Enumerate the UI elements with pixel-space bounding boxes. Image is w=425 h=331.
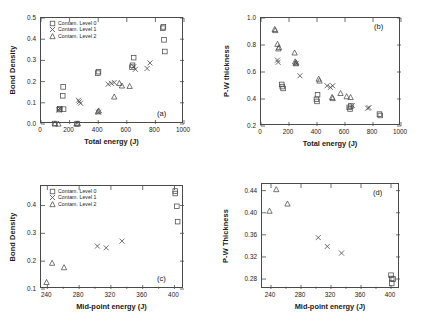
- xtick-label: 0: [258, 128, 262, 135]
- legend-label: Contam. Level 2: [57, 33, 97, 39]
- ytick-label: 0.40: [245, 208, 257, 215]
- xtick-label: 0: [38, 126, 42, 133]
- y-axis-label-b: P-W thickness: [222, 45, 231, 97]
- ytick-label: 0.0: [27, 120, 36, 127]
- xtick-label: 320: [325, 291, 336, 298]
- ytick-label: 0.32: [245, 252, 257, 259]
- legend-marker-triangle-icon: [48, 201, 57, 207]
- xtick-label: 600: [120, 126, 131, 133]
- figure-root: 020040060080010000.00.10.20.30.40.5Total…: [0, 0, 425, 331]
- xtick-label: 360: [355, 291, 366, 298]
- xtick-label: 1000: [176, 126, 190, 133]
- panel-a: 020040060080010000.00.10.20.30.40.5Total…: [0, 0, 213, 166]
- ytick-label: 0.5: [27, 14, 36, 21]
- ytick-label: 0.28: [245, 275, 257, 282]
- ytick-label: 1.0: [247, 14, 256, 21]
- series-c-0: [173, 189, 180, 224]
- series-d-2: [267, 187, 290, 214]
- ytick-label: 0.4: [27, 35, 36, 42]
- legend-item: Contam. Level 2: [48, 33, 97, 39]
- series-a-2: [52, 80, 132, 126]
- xtick-label: 400: [168, 291, 179, 298]
- xtick-label: 200: [63, 126, 74, 133]
- ytick-label: 0.4: [27, 201, 36, 208]
- series-a-0: [52, 25, 167, 126]
- ytick-label: 0.2: [27, 77, 36, 84]
- ytick-label: 0.3: [27, 56, 36, 63]
- panel-tag-d: (d): [373, 188, 382, 197]
- series-a-1: [56, 60, 152, 114]
- series-c-2: [44, 260, 67, 284]
- panel-c: 2402803203604000.10.20.30.4Mid-point ene…: [0, 165, 213, 331]
- legend-item: Contam. Level 2: [48, 201, 97, 207]
- x-axis-label-b: Total energy (J): [303, 139, 357, 148]
- xtick-label: 360: [136, 291, 147, 298]
- legend-c: Contam. Level 0Contam. Level 1Contam. Le…: [48, 188, 97, 207]
- xtick-label: 240: [41, 291, 52, 298]
- ytick-label: 0.1: [27, 98, 36, 105]
- xtick-label: 800: [367, 128, 378, 135]
- xtick-label: 1000: [393, 128, 407, 135]
- y-axis-label-c: Bond Density: [8, 212, 17, 261]
- legend-marker-triangle-icon: [48, 33, 57, 39]
- plot-canvas-b: [261, 18, 401, 126]
- series-b-2: [272, 26, 353, 100]
- ytick-label: 0.44: [245, 186, 257, 193]
- series-d-1: [316, 235, 344, 255]
- legend-label: Contam. Level 2: [57, 201, 97, 207]
- xtick-label: 600: [339, 128, 350, 135]
- plot-canvas-d: [262, 184, 400, 289]
- x-axis-label-c: Mid-point energy (J): [76, 302, 147, 311]
- xtick-label: 400: [385, 291, 396, 298]
- ytick-label: 0.2: [247, 122, 256, 129]
- plot-frame-d: [261, 183, 399, 288]
- series-d-0: [389, 273, 396, 286]
- x-axis-label-a: Total energy (J): [84, 137, 138, 146]
- panel-b: 020040060080010000.20.40.60.81.0Total en…: [213, 0, 425, 166]
- xtick-label: 800: [149, 126, 160, 133]
- xtick-label: 320: [105, 291, 116, 298]
- x-axis-label-d: Mid-point energy (J): [295, 302, 366, 311]
- plot-frame-b: [260, 17, 400, 125]
- series-b-1: [275, 58, 372, 111]
- xtick-label: 240: [265, 291, 276, 298]
- xtick-label: 400: [92, 126, 103, 133]
- panel-tag-a: (a): [157, 109, 166, 118]
- ytick-label: 0.36: [245, 230, 257, 237]
- ytick-label: 0.2: [27, 257, 36, 264]
- panel-tag-c: (c): [157, 274, 166, 283]
- xtick-label: 280: [73, 291, 84, 298]
- ytick-label: 0.8: [247, 41, 256, 48]
- y-axis-label-a: Bond Density: [8, 46, 17, 95]
- ytick-label: 0.6: [247, 68, 256, 75]
- ytick-label: 0.4: [247, 95, 256, 102]
- panel-tag-b: (b): [374, 22, 383, 31]
- xtick-label: 280: [295, 291, 306, 298]
- panel-d: 2402803203604000.280.320.360.400.44Mid-p…: [213, 165, 425, 331]
- y-axis-label-d: P-W Thickness: [221, 209, 230, 263]
- legend-a: Contam. Level 0Contam. Level 1Contam. Le…: [48, 20, 97, 39]
- ytick-label: 0.1: [27, 285, 36, 292]
- xtick-label: 200: [283, 128, 294, 135]
- series-c-1: [95, 239, 125, 251]
- xtick-label: 400: [311, 128, 322, 135]
- ytick-label: 0.3: [27, 229, 36, 236]
